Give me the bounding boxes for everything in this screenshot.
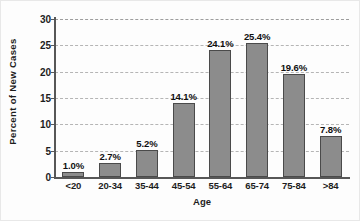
bar-value-label: 7.8% xyxy=(320,124,341,135)
bar-slot: 7.8% xyxy=(312,19,349,177)
y-tick-label: 20 xyxy=(31,66,51,77)
bars-layer: 1.0%2.7%5.2%14.1%24.1%25.4%19.6%7.8% xyxy=(55,19,349,177)
bar[interactable]: 14.1% xyxy=(173,103,195,177)
x-tick-label: 20-34 xyxy=(92,180,129,195)
bar-slot: 2.7% xyxy=(92,19,129,177)
y-tick-label: 5 xyxy=(31,145,51,156)
x-tick-label: <20 xyxy=(55,180,92,195)
bar-slot: 1.0% xyxy=(55,19,92,177)
bar[interactable]: 2.7% xyxy=(99,163,121,177)
x-tick-label: 65-74 xyxy=(239,180,276,195)
x-axis-tick-labels: <2020-3435-4445-5455-6465-7475-84>84 xyxy=(55,180,349,195)
bar[interactable]: 5.2% xyxy=(136,150,158,177)
y-tick-label: 25 xyxy=(31,40,51,51)
x-tick-label: 35-44 xyxy=(129,180,166,195)
bar-slot: 14.1% xyxy=(165,19,202,177)
x-axis-line xyxy=(54,177,350,179)
y-axis-tick-labels: 051015202530 xyxy=(29,19,51,177)
bar-value-label: 14.1% xyxy=(170,91,196,102)
bar-value-label: 25.4% xyxy=(244,31,270,42)
x-tick-label: 45-54 xyxy=(165,180,202,195)
bar[interactable]: 25.4% xyxy=(246,43,268,177)
bar-value-label: 2.7% xyxy=(99,151,120,162)
bar-value-label: 24.1% xyxy=(207,38,233,49)
bar[interactable]: 1.0% xyxy=(62,172,84,177)
bar[interactable]: 7.8% xyxy=(320,136,342,177)
x-tick-label: >84 xyxy=(312,180,349,195)
x-tick-label: 75-84 xyxy=(276,180,313,195)
y-axis-title: Percent of New Cases xyxy=(1,1,23,181)
x-tick-label: 55-64 xyxy=(202,180,239,195)
y-tick-label: 10 xyxy=(31,119,51,130)
y-axis-title-text: Percent of New Cases xyxy=(7,38,18,144)
bar-value-label: 5.2% xyxy=(136,138,157,149)
bar[interactable]: 19.6% xyxy=(283,74,305,177)
bar-slot: 5.2% xyxy=(129,19,166,177)
bar-value-label: 1.0% xyxy=(63,160,84,171)
x-axis-title: Age xyxy=(55,196,349,207)
y-tick-label: 30 xyxy=(31,14,51,25)
y-tick-label: 0 xyxy=(31,172,51,183)
bar-value-label: 19.6% xyxy=(281,62,307,73)
bar-slot: 25.4% xyxy=(239,19,276,177)
bar-slot: 24.1% xyxy=(202,19,239,177)
bar-slot: 19.6% xyxy=(276,19,313,177)
bar-chart-figure: Percent of New Cases 051015202530 1.0%2.… xyxy=(0,0,360,221)
bar[interactable]: 24.1% xyxy=(209,50,231,177)
y-tick-label: 15 xyxy=(31,93,51,104)
